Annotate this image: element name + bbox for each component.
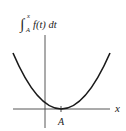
- integral-lower-limit: A: [25, 26, 30, 33]
- curve-integral: [13, 53, 110, 109]
- integrand: f(t) dt: [33, 19, 58, 31]
- y-axis-label: ∫ x A f(t) dt: [19, 12, 58, 33]
- integral-sign: ∫: [19, 16, 26, 33]
- x-axis-label: x: [114, 102, 120, 114]
- integral-function-graph: ∫ x A f(t) dt x A: [0, 0, 126, 131]
- x-tick-label-A: A: [57, 116, 65, 127]
- integral-upper-limit: x: [26, 12, 30, 19]
